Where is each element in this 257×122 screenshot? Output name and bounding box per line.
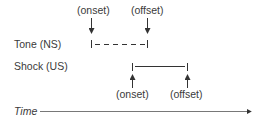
timeline-graphics [0,0,257,122]
